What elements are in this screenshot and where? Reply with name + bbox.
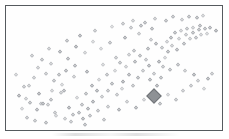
data-point (157, 102, 162, 107)
data-point (30, 54, 35, 59)
data-point (154, 42, 159, 47)
data-point (14, 72, 19, 77)
data-point (104, 72, 109, 77)
data-point (116, 108, 121, 113)
baseline-artifact (52, 133, 180, 136)
data-point (159, 76, 164, 81)
data-point (187, 14, 192, 19)
data-point (86, 107, 91, 112)
data-point (192, 73, 197, 78)
data-point (201, 13, 206, 18)
data-point (153, 17, 158, 22)
data-point (123, 65, 128, 70)
data-point (175, 48, 180, 53)
data-point (201, 87, 206, 92)
data-point (82, 123, 87, 128)
data-point (32, 76, 37, 81)
data-point (143, 57, 148, 62)
data-point (199, 32, 204, 37)
data-point (97, 78, 102, 83)
data-point (171, 15, 176, 20)
data-point (101, 63, 106, 68)
data-point (79, 102, 84, 107)
data-point (190, 31, 195, 36)
data-point (72, 75, 77, 80)
data-point (181, 42, 186, 47)
data-point (163, 19, 168, 24)
data-point (66, 56, 71, 61)
data-point (101, 118, 106, 123)
data-point (25, 115, 30, 120)
data-point (165, 92, 170, 97)
data-point (76, 111, 81, 116)
data-point (134, 105, 139, 110)
data-point (136, 31, 141, 36)
data-point (108, 41, 113, 46)
data-point (152, 71, 157, 76)
data-point (174, 98, 179, 103)
data-point (63, 68, 68, 73)
data-point (60, 82, 65, 87)
data-point (131, 49, 136, 54)
data-point (180, 89, 185, 94)
data-point (140, 68, 145, 73)
data-point (143, 20, 148, 25)
data-point (78, 33, 83, 38)
data-point (183, 68, 188, 73)
data-point (180, 18, 185, 23)
data-point (52, 78, 57, 83)
data-point (206, 77, 211, 82)
data-point (213, 29, 218, 34)
data-point (83, 91, 88, 96)
data-point (50, 89, 55, 94)
data-point (74, 44, 79, 49)
data-point (67, 105, 72, 110)
data-point (95, 109, 100, 114)
data-point (129, 26, 134, 31)
data-point (94, 89, 99, 94)
data-point (35, 66, 40, 71)
data-point (28, 101, 33, 106)
data-point (105, 104, 110, 109)
data-point (126, 53, 131, 58)
data-point (118, 61, 123, 66)
data-point (195, 78, 200, 83)
data-point (187, 37, 192, 42)
data-point (49, 62, 54, 67)
data-point (112, 68, 117, 73)
data-point (179, 29, 184, 34)
data-point (69, 120, 74, 125)
data-point (48, 98, 53, 103)
data-point (57, 50, 62, 55)
data-point (89, 83, 94, 88)
data-point (154, 83, 159, 88)
data-point (169, 35, 174, 40)
data-point (161, 65, 166, 70)
data-point (56, 73, 61, 78)
data-point (110, 81, 115, 86)
data-point (208, 26, 213, 31)
data-point (138, 54, 143, 59)
data-point (106, 89, 111, 94)
data-point (195, 16, 200, 21)
data-point (121, 79, 126, 84)
data-point (93, 29, 98, 34)
data-point (98, 46, 103, 51)
data-point (44, 71, 49, 76)
data-point (176, 37, 181, 42)
data-point (205, 31, 210, 36)
data-point (63, 116, 68, 121)
plot-area (6, 6, 222, 130)
data-point (33, 119, 38, 124)
data-point (43, 121, 48, 126)
data-point (156, 60, 161, 65)
data-point (120, 21, 125, 26)
data-point (125, 100, 130, 105)
data-point (133, 59, 138, 64)
data-point (147, 78, 152, 83)
data-point (114, 56, 119, 61)
data-point (40, 57, 45, 62)
data-point (100, 94, 105, 99)
data-point (185, 27, 190, 32)
data-point (142, 98, 147, 103)
